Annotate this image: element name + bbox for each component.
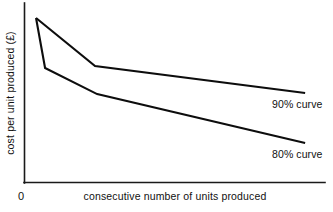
origin-tick-label: 0 <box>18 190 24 202</box>
chart-canvas: 0 consecutive number of units produced c… <box>0 0 333 212</box>
series-label-80-percent: 80% curve <box>272 148 323 160</box>
x-axis-title: consecutive number of units produced <box>84 190 267 202</box>
learning-curve-chart: 0 consecutive number of units produced c… <box>0 0 333 212</box>
series-label-90-percent: 90% curve <box>272 98 323 110</box>
y-axis-title: cost per unit produced (£) <box>4 31 16 155</box>
